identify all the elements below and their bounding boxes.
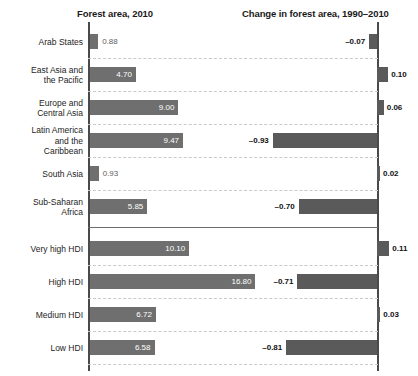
forest-change-bar — [369, 34, 377, 49]
category-label: High HDI — [0, 277, 83, 288]
forest-area-value: 6.72 — [130, 307, 152, 322]
forest-area-value: 0.93 — [103, 166, 119, 181]
forest-change-bar — [377, 166, 380, 181]
chart-row: Arab States0.88–0.07 — [0, 25, 418, 58]
forest-change-bar — [286, 340, 377, 355]
forest-area-value: 0.88 — [102, 34, 118, 49]
forest-change-value: 0.06 — [387, 100, 403, 115]
forest-change-value: –0.71 — [267, 274, 293, 289]
forest-area-value: 9.00 — [152, 100, 174, 115]
forest-change-value: 0.03 — [383, 307, 399, 322]
category-label: Very high HDI — [0, 244, 83, 255]
chart-row: East Asia and the Pacific4.700.10 — [0, 58, 418, 91]
forest-area-chart: Forest area, 2010 Change in forest area,… — [0, 0, 418, 376]
gridline — [88, 364, 378, 365]
category-label: Latin America and the Caribbean — [0, 125, 83, 157]
forest-area-bar — [90, 34, 99, 49]
category-label: Low HDI — [0, 343, 83, 354]
group-separator-line — [88, 227, 378, 228]
forest-change-value: –0.70 — [269, 199, 295, 214]
chart-row: Medium HDI6.720.03 — [0, 298, 418, 331]
chart-row: Very high HDI10.100.11 — [0, 232, 418, 265]
chart-row: Europe and Central Asia9.000.06 — [0, 91, 418, 124]
forest-change-bar — [377, 100, 384, 115]
forest-change-bar — [273, 133, 377, 148]
category-label: Europe and Central Asia — [0, 98, 83, 119]
chart-row: High HDI16.80–0.71 — [0, 265, 418, 298]
right-panel-title: Change in forest area, 1990–2010 — [242, 8, 389, 19]
chart-row: South Asia0.930.02 — [0, 157, 418, 190]
category-label: Arab States — [0, 37, 83, 48]
forest-change-value: –0.81 — [256, 340, 282, 355]
chart-row: Latin America and the Caribbean9.47–0.93 — [0, 124, 418, 157]
forest-change-bar — [377, 241, 389, 256]
forest-area-value: 16.80 — [229, 274, 251, 289]
forest-area-value: 4.70 — [110, 67, 132, 82]
left-panel-title: Forest area, 2010 — [77, 8, 153, 19]
forest-change-bar — [299, 199, 377, 214]
forest-change-value: –0.07 — [339, 34, 365, 49]
category-label: Medium HDI — [0, 310, 83, 321]
forest-change-bar — [377, 67, 388, 82]
forest-change-bar — [377, 307, 380, 322]
forest-change-value: 0.11 — [392, 241, 407, 256]
chart-row: Low HDI6.58–0.81 — [0, 331, 418, 364]
forest-change-bar — [297, 274, 377, 289]
chart-row: Sub-Saharan Africa5.85–0.70 — [0, 190, 418, 223]
forest-change-value: 0.10 — [391, 67, 407, 82]
forest-change-value: –0.93 — [243, 133, 269, 148]
forest-area-bar — [90, 166, 99, 181]
forest-area-value: 5.85 — [121, 199, 143, 214]
forest-area-value: 10.10 — [163, 241, 185, 256]
forest-area-value: 6.58 — [129, 340, 151, 355]
forest-change-value: 0.02 — [383, 166, 399, 181]
category-label: East Asia and the Pacific — [0, 65, 83, 86]
forest-area-value: 9.47 — [157, 133, 179, 148]
category-label: South Asia — [0, 169, 83, 180]
category-label: Sub-Saharan Africa — [0, 197, 83, 218]
